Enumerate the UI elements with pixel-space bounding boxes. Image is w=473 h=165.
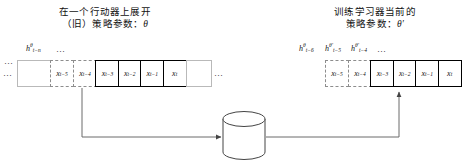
- actor-to-buffer-connector: [82, 88, 221, 137]
- experience-buffer-cylinder: [223, 112, 265, 160]
- buffer-to-learner-connector: [266, 92, 399, 137]
- figure-canvas: 在一个行动器上展开 （旧）策略参数：θ 训练学习器当前的 策略参数：θ′ … h…: [0, 0, 473, 165]
- connector-wiring: [0, 0, 473, 165]
